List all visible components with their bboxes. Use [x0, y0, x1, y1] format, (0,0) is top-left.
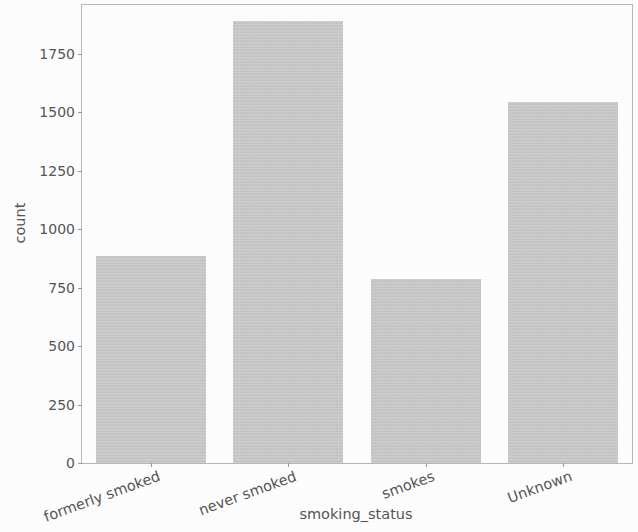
bar	[371, 279, 481, 463]
x-axis-label: smoking_status	[81, 506, 631, 522]
y-tick-label: 1750	[39, 47, 75, 61]
bar	[96, 256, 206, 463]
bar	[233, 21, 343, 463]
y-tick-label: 750	[48, 281, 75, 295]
x-tick-mark	[563, 463, 564, 467]
x-tick-mark	[426, 463, 427, 467]
x-tick-mark	[151, 463, 152, 467]
y-axis-label: count	[12, 188, 28, 258]
bar	[508, 102, 618, 463]
y-tick-label: 1250	[39, 164, 75, 178]
y-tick-label: 0	[66, 456, 75, 470]
y-tick-label: 250	[48, 398, 75, 412]
y-tick-mark	[78, 463, 82, 464]
y-tick-label: 1500	[39, 105, 75, 119]
x-tick-label: Unknown	[506, 469, 574, 506]
bars-layer	[82, 5, 632, 463]
y-tick-label: 500	[48, 339, 75, 353]
x-tick-label: smokes	[380, 469, 437, 501]
y-tick-label: 1000	[39, 222, 75, 236]
x-tick-mark	[288, 463, 289, 467]
plot-area: 02505007501000125015001750 formerly smok…	[81, 4, 633, 464]
bar-chart-figure: count 02505007501000125015001750 formerl…	[0, 0, 638, 532]
